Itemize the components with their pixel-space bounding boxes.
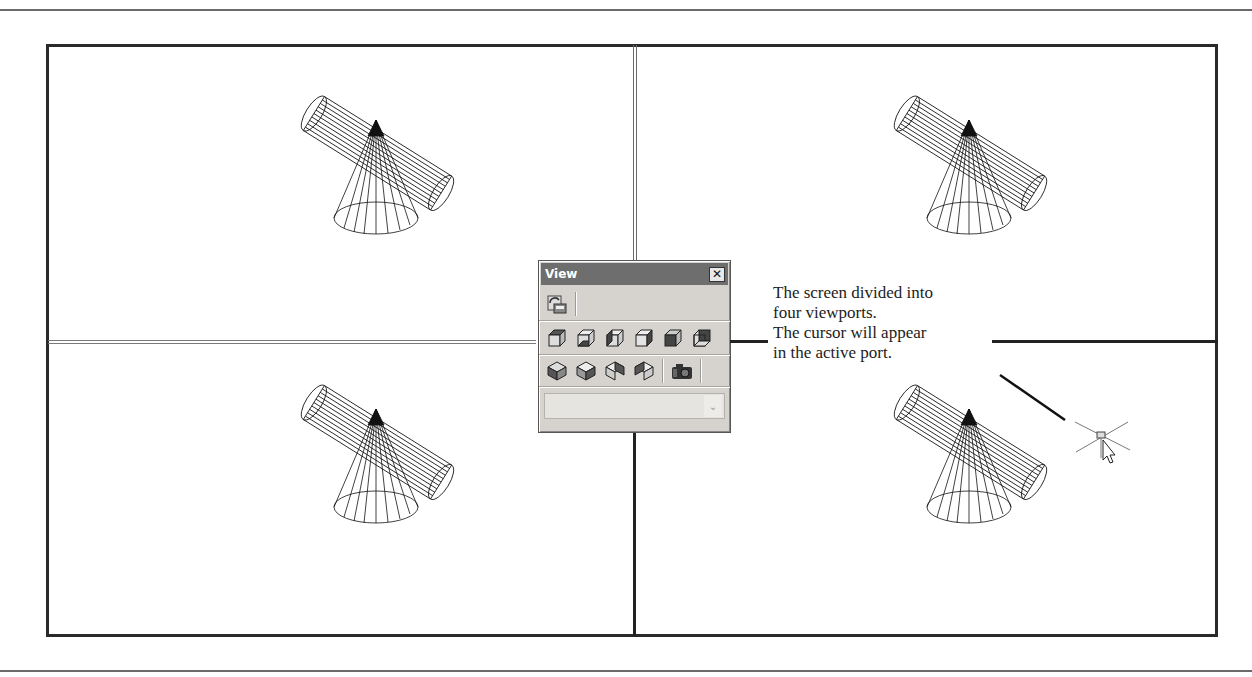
view-toolbar[interactable]: View ✕ [538,260,731,433]
active-viewport-border-left [633,433,636,637]
viewport-divider-horizontal-left [48,340,536,344]
sw-isometric-button[interactable] [544,358,569,383]
left-view-button[interactable] [602,325,627,350]
back-view-button[interactable] [689,325,714,350]
toolbar-title-bar[interactable]: View ✕ [541,263,728,285]
right-view-button[interactable] [631,325,656,350]
callout-leader-left [730,340,768,343]
sw-isometric-icon [546,360,568,382]
camera-icon [670,360,694,382]
toolbar-title: View [545,267,577,281]
view-combo-box[interactable]: ⌄ [544,393,725,419]
nw-isometric-button[interactable] [631,358,656,383]
left-view-icon [604,327,626,349]
right-view-icon [633,327,655,349]
close-button[interactable]: ✕ [709,267,725,282]
top-rule [0,9,1252,11]
camera-button[interactable] [669,358,694,383]
front-view-icon [662,327,684,349]
callout-line: in the active port. [773,343,1003,363]
se-isometric-button[interactable] [573,358,598,383]
nw-isometric-icon [633,360,655,382]
bottom-view-button[interactable] [573,325,598,350]
toolbar-separator [700,359,701,383]
bottom-rule [0,670,1252,672]
se-isometric-icon [575,360,597,382]
bottom-view-icon [575,327,597,349]
ne-isometric-icon [604,360,626,382]
callout-line: four viewports. [773,303,1003,323]
top-view-button[interactable] [544,325,569,350]
named-views-icon [546,293,568,315]
wireframe-model [296,90,456,240]
callout-line: The cursor will appear [773,323,1003,343]
front-view-button[interactable] [660,325,685,350]
callout-line: The screen divided into [773,283,1003,303]
ne-isometric-button[interactable] [602,358,627,383]
callout-annotation: The screen divided into four viewports. … [773,283,1003,363]
top-view-icon [546,327,568,349]
toolbar-row-isometric-views [539,355,730,387]
toolbar-row-orthographic-views [539,321,730,355]
toolbar-separator [575,292,576,316]
wireframe-model [889,379,1049,529]
named-views-button[interactable] [544,291,569,316]
wireframe-model [889,90,1049,240]
viewport-divider-vertical-top [633,45,637,260]
back-view-icon [691,327,713,349]
wireframe-model [296,379,456,529]
toolbar-separator [662,359,663,383]
toolbar-row-named-views [539,287,730,321]
chevron-down-icon[interactable]: ⌄ [704,395,722,417]
